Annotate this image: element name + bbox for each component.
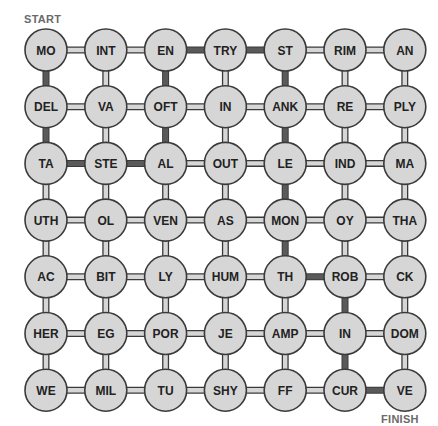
node-label: PLY	[394, 100, 416, 114]
maze-node-ff[interactable]: FF	[264, 369, 306, 411]
node-label: VE	[397, 384, 413, 398]
node-label: FF	[278, 384, 293, 398]
node-label: JE	[218, 327, 233, 341]
node-label: IND	[335, 157, 356, 171]
maze-node-ste[interactable]: STE	[85, 142, 127, 184]
node-label: EN	[157, 44, 174, 58]
node-label: ANK	[272, 100, 298, 114]
maze-node-st[interactable]: ST	[264, 29, 306, 71]
node-label: EG	[97, 327, 114, 341]
maze-node-tu[interactable]: TU	[145, 369, 187, 411]
node-label: STE	[94, 157, 117, 171]
node-label: MA	[395, 157, 414, 171]
node-label: IN	[219, 100, 231, 114]
node-label: HUM	[212, 270, 239, 284]
maze-node-her[interactable]: HER	[25, 313, 67, 355]
maze-node-ply[interactable]: PLY	[384, 86, 426, 128]
maze-node-amp[interactable]: AMP	[264, 313, 306, 355]
maze-node-oy[interactable]: OY	[324, 199, 366, 241]
maze-node-try[interactable]: TRY	[204, 29, 246, 71]
node-label: IN	[339, 327, 351, 341]
maze-node-mil[interactable]: MIL	[85, 369, 127, 411]
maze-node-eg[interactable]: EG	[85, 313, 127, 355]
node-label: DEL	[34, 100, 58, 114]
maze-node-cur[interactable]: CUR	[324, 369, 366, 411]
node-label: AN	[396, 44, 413, 58]
node-label: HER	[33, 327, 59, 341]
maze-node-we[interactable]: WE	[25, 369, 67, 411]
node-label: AL	[158, 157, 174, 171]
maze-node-as[interactable]: AS	[204, 199, 246, 241]
node-label: OFT	[154, 100, 179, 114]
node-label: MO	[36, 44, 55, 58]
maze-node-por[interactable]: POR	[145, 313, 187, 355]
node-label: OY	[336, 214, 353, 228]
maze-node-uth[interactable]: UTH	[25, 199, 67, 241]
maze-node-ol[interactable]: OL	[85, 199, 127, 241]
node-label: AC	[37, 270, 55, 284]
node-label: AMP	[272, 327, 299, 341]
maze-node-ma[interactable]: MA	[384, 142, 426, 184]
node-label: TA	[38, 157, 53, 171]
maze-node-out[interactable]: OUT	[204, 142, 246, 184]
maze-node-al[interactable]: AL	[145, 142, 187, 184]
maze-node-in[interactable]: IN	[324, 313, 366, 355]
maze-node-bit[interactable]: BIT	[85, 256, 127, 298]
node-label: VA	[98, 100, 114, 114]
maze-node-ck[interactable]: CK	[384, 256, 426, 298]
maze-node-mon[interactable]: MON	[264, 199, 306, 241]
maze-node-ta[interactable]: TA	[25, 142, 67, 184]
maze-node-tha[interactable]: THA	[384, 199, 426, 241]
maze-node-hum[interactable]: HUM	[204, 256, 246, 298]
maze-node-ind[interactable]: IND	[324, 142, 366, 184]
node-label: ST	[278, 44, 294, 58]
node-label: INT	[96, 44, 116, 58]
maze-node-shy[interactable]: SHY	[204, 369, 246, 411]
node-label: SHY	[213, 384, 238, 398]
node-label: TH	[277, 270, 293, 284]
node-label: MON	[271, 214, 299, 228]
maze-node-dom[interactable]: DOM	[384, 313, 426, 355]
node-label: DOM	[391, 327, 419, 341]
node-label: UTH	[34, 214, 59, 228]
maze-node-ven[interactable]: VEN	[145, 199, 187, 241]
maze-node-je[interactable]: JE	[204, 313, 246, 355]
nodes: MOINTENTRYSTRIMANDELVAOFTINANKREPLYTASTE…	[25, 29, 426, 411]
maze-node-re[interactable]: RE	[324, 86, 366, 128]
node-label: MIL	[95, 384, 116, 398]
maze-node-en[interactable]: EN	[145, 29, 187, 71]
maze-node-va[interactable]: VA	[85, 86, 127, 128]
maze-node-del[interactable]: DEL	[25, 86, 67, 128]
node-label: THA	[392, 214, 417, 228]
word-maze-board: MOINTENTRYSTRIMANDELVAOFTINANKREPLYTASTE…	[0, 0, 438, 426]
node-label: OUT	[213, 157, 239, 171]
node-label: WE	[36, 384, 55, 398]
node-label: CUR	[332, 384, 358, 398]
maze-node-rim[interactable]: RIM	[324, 29, 366, 71]
node-label: RIM	[334, 44, 356, 58]
maze-node-ve[interactable]: VE	[384, 369, 426, 411]
maze-node-ly[interactable]: LY	[145, 256, 187, 298]
maze-node-an[interactable]: AN	[384, 29, 426, 71]
maze-node-int[interactable]: INT	[85, 29, 127, 71]
node-label: LE	[278, 157, 293, 171]
node-label: RE	[337, 100, 354, 114]
node-label: AS	[217, 214, 234, 228]
maze-node-th[interactable]: TH	[264, 256, 306, 298]
node-label: ROB	[332, 270, 359, 284]
node-label: BIT	[96, 270, 116, 284]
node-label: TRY	[214, 44, 238, 58]
maze-node-mo[interactable]: MO	[25, 29, 67, 71]
node-label: POR	[153, 327, 179, 341]
maze-node-le[interactable]: LE	[264, 142, 306, 184]
node-label: OL	[97, 214, 114, 228]
maze-node-rob[interactable]: ROB	[324, 256, 366, 298]
maze-node-oft[interactable]: OFT	[145, 86, 187, 128]
node-label: VEN	[153, 214, 178, 228]
node-label: TU	[158, 384, 174, 398]
maze-node-in[interactable]: IN	[204, 86, 246, 128]
node-label: LY	[158, 270, 172, 284]
maze-node-ac[interactable]: AC	[25, 256, 67, 298]
node-label: CK	[396, 270, 414, 284]
maze-node-ank[interactable]: ANK	[264, 86, 306, 128]
